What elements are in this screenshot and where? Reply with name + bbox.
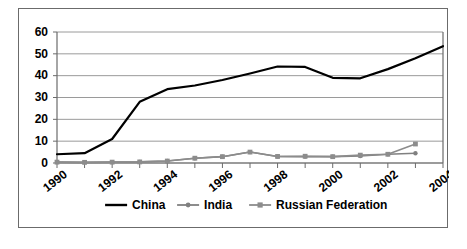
legend-label: India — [204, 198, 232, 212]
chart-frame: 0102030405060 19901992199419961998200020… — [18, 8, 448, 228]
y-axis-tick-labels: 0102030405060 — [35, 25, 49, 170]
data-point-marker — [413, 142, 418, 147]
chart-legend: ChinaIndiaRussian Federation — [105, 198, 387, 212]
x-axis-tick-label: 2002 — [371, 167, 401, 195]
data-point-marker — [275, 154, 280, 159]
gridlines — [57, 32, 443, 163]
x-axis-tick-label-group: 1992 — [95, 167, 125, 195]
data-point-marker — [55, 160, 60, 165]
data-point-marker — [82, 160, 87, 165]
data-point-marker — [192, 156, 197, 161]
y-axis-tick-label: 0 — [41, 156, 48, 170]
y-axis-tick-label: 40 — [35, 68, 49, 82]
legend-marker-square — [258, 202, 263, 207]
y-axis-tick-label: 10 — [35, 134, 49, 148]
x-axis-tick-label-group: 2004 — [426, 167, 449, 195]
data-point-marker — [110, 160, 115, 165]
x-axis-tick-label-group: 1990 — [40, 167, 70, 195]
x-axis-tick-label: 1996 — [206, 167, 236, 195]
x-axis-tick-label-group: 2002 — [371, 167, 401, 195]
legend-item-china[interactable]: China — [105, 198, 166, 212]
data-point-marker — [358, 153, 363, 158]
x-axis-tick-label: 1992 — [95, 167, 125, 195]
data-point-marker — [303, 154, 308, 159]
y-axis-tick-label: 60 — [35, 25, 49, 39]
data-point-marker — [413, 151, 417, 155]
data-point-marker — [330, 154, 335, 159]
legend-marker-circle — [186, 203, 191, 208]
x-axis-tick-label: 2000 — [316, 167, 346, 195]
x-axis-tick-label: 1994 — [150, 167, 180, 195]
data-point-marker — [220, 154, 225, 159]
data-series — [55, 46, 443, 165]
x-axis-tick-label-group: 1994 — [150, 167, 180, 195]
data-point-marker — [248, 150, 253, 155]
x-axis-tick-label-group: 1996 — [206, 167, 236, 195]
data-point-marker — [385, 152, 390, 157]
y-axis-tick-label: 20 — [35, 112, 49, 126]
legend-label: China — [132, 198, 166, 212]
x-axis-tick-label: 1998 — [261, 167, 291, 195]
y-axis-tick-label: 30 — [35, 90, 49, 104]
legend-item-india[interactable]: India — [177, 198, 232, 212]
x-axis-tick-label-group: 1998 — [261, 167, 291, 195]
x-axis-tick-labels: 19901992199419961998200020022004 — [40, 167, 449, 195]
legend-item-russian-federation[interactable]: Russian Federation — [249, 198, 387, 212]
series-line-china — [57, 46, 443, 154]
x-axis-tick-label-group: 2000 — [316, 167, 346, 195]
x-axis-tick-label: 2004 — [426, 167, 449, 195]
y-axis-tick-label: 50 — [35, 47, 49, 61]
legend-label: Russian Federation — [276, 198, 387, 212]
data-point-marker — [165, 159, 170, 164]
data-point-marker — [137, 160, 142, 165]
chart-plot-area: 0102030405060 19901992199419961998200020… — [19, 9, 449, 229]
line-chart: 0102030405060 19901992199419961998200020… — [19, 9, 449, 229]
x-axis-tick-label: 1990 — [40, 167, 70, 195]
